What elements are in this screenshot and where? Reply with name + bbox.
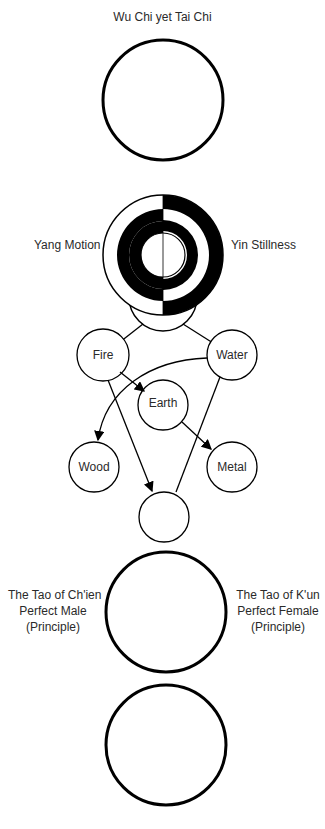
water-label: Water [207,346,257,364]
wood-label: Wood [69,458,119,476]
kun-line3: (Principle) [232,619,324,635]
chien-line1: The Tao of Ch'ien [8,587,98,603]
chien-label: The Tao of Ch'ien Perfect Male (Principl… [8,587,98,635]
title-label: Wu Chi yet Tai Chi [0,8,325,26]
chien-line3: (Principle) [8,619,98,635]
earth-label: Earth [138,394,188,412]
kun-line1: The Tao of K'un [232,587,324,603]
wu-chi-circle [103,40,223,160]
kun-line2: Perfect Female [232,603,324,619]
earth-to-metal-arrow [182,422,211,449]
chien-line2: Perfect Male [8,603,98,619]
final-circle [106,685,226,805]
taiji-diagram [0,0,325,829]
fire-label: Fire [78,346,128,364]
metal-label: Metal [207,458,257,476]
kun-label: The Tao of K'un Perfect Female (Principl… [232,587,324,635]
yin-stillness-label: Yin Stillness [231,236,296,254]
chien-kun-circle [106,552,226,672]
yang-motion-label: Yang Motion [34,236,101,254]
yin-yang-rings [103,195,223,315]
union-circle [139,492,189,542]
